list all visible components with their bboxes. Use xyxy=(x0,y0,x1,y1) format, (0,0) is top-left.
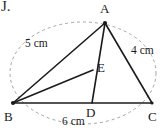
side-AB xyxy=(13,23,105,103)
measure-label-BC: 6 cm xyxy=(62,116,85,128)
corner-text-fragment: J. xyxy=(1,0,11,14)
vertex-label-E: E xyxy=(97,61,105,74)
vertex-dot-A xyxy=(103,21,107,25)
measure-label-AC: 4 cm xyxy=(131,45,154,57)
diagram-canvas xyxy=(0,0,167,131)
vertex-dot-C xyxy=(150,101,153,104)
vertex-label-C: C xyxy=(148,110,157,123)
vertex-label-A: A xyxy=(100,2,109,15)
geometry-figure: J. A B C D E 5 cm 4 cm 6 cm xyxy=(0,0,167,131)
segment-BE xyxy=(13,70,93,103)
vertex-label-B: B xyxy=(4,110,13,123)
vertex-label-D: D xyxy=(86,106,95,119)
side-AC xyxy=(105,23,152,103)
measure-label-AB: 5 cm xyxy=(25,38,48,50)
vertex-dot-B xyxy=(11,101,15,105)
